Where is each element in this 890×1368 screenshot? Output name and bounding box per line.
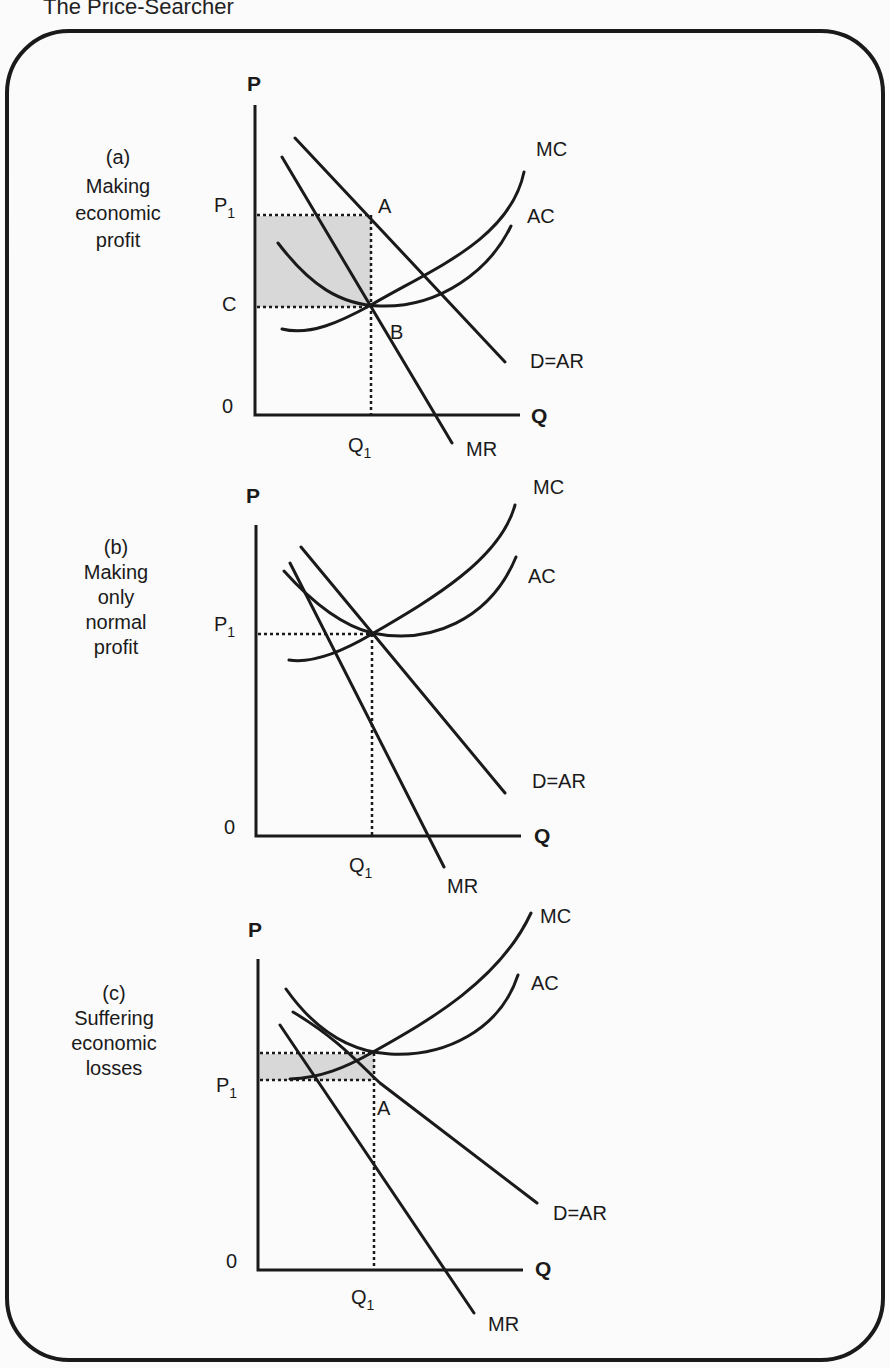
q1-label: Q1 [351, 1286, 375, 1313]
panel-c-caption-2: economic [71, 1032, 157, 1054]
ac-label: AC [527, 205, 555, 227]
y-axis-label: P [248, 918, 262, 941]
x-axis-label: Q [534, 824, 550, 847]
panel-a-caption-3: profit [96, 229, 141, 251]
panel-c: (c) Suffering economic losses P Q 0 P1 Q… [71, 905, 607, 1335]
x-axis-label: Q [531, 404, 547, 427]
ac-label: AC [528, 565, 556, 587]
q1-label: Q1 [348, 434, 372, 461]
point-a-label: A [378, 195, 392, 217]
panel-b-caption-1: Making [84, 561, 148, 583]
c-label: C [222, 293, 236, 315]
panel-a-caption-0: (a) [106, 146, 130, 168]
mc-label: MC [540, 905, 571, 927]
mc-label: MC [536, 138, 567, 160]
demand-curve [301, 547, 505, 793]
mr-label: MR [466, 438, 497, 460]
profit-area [257, 216, 371, 307]
point-a-label: A [377, 1097, 391, 1119]
origin-label: 0 [226, 1250, 237, 1272]
panel-a-caption-2: economic [75, 202, 161, 224]
panel-c-caption-0: (c) [102, 982, 125, 1004]
p1-label: P1 [214, 194, 235, 221]
demand-label: D=AR [553, 1202, 607, 1224]
demand-label: D=AR [532, 770, 586, 792]
p1-label: P1 [214, 613, 235, 640]
ac-label: AC [531, 972, 559, 994]
demand-label: D=AR [530, 350, 584, 372]
price-quantity-guide [258, 634, 372, 836]
panel-b-caption-3: normal [85, 611, 146, 633]
panel-c-caption-3: losses [86, 1057, 143, 1079]
panel-c-caption-1: Suffering [74, 1007, 154, 1029]
mr-label: MR [447, 875, 478, 897]
p1-label: P1 [216, 1074, 237, 1101]
cost-quantity-guide [260, 1053, 374, 1270]
mr-curve [290, 563, 444, 867]
x-axis-label: Q [535, 1257, 551, 1280]
panel-a-caption-1: Making [86, 175, 150, 197]
diagram-canvas: (a) Making economic profit P Q 0 P1 C Q1… [0, 0, 890, 1368]
origin-label: 0 [222, 395, 233, 417]
ac-curve [286, 975, 518, 1054]
q1-label: Q1 [349, 854, 373, 881]
panel-b-caption-4: profit [94, 636, 139, 658]
mr-label: MR [488, 1313, 519, 1335]
y-axis-label: P [247, 72, 261, 95]
y-axis-label: P [246, 484, 260, 507]
mc-label: MC [533, 476, 564, 498]
panel-b-caption-0: (b) [104, 536, 128, 558]
panel-b: (b) Making only normal profit P Q 0 P1 Q… [84, 476, 586, 897]
origin-label: 0 [224, 816, 235, 838]
demand-curve [293, 1012, 537, 1203]
panel-a: (a) Making economic profit P Q 0 P1 C Q1… [75, 72, 584, 461]
panel-b-caption-2: only [98, 586, 135, 608]
